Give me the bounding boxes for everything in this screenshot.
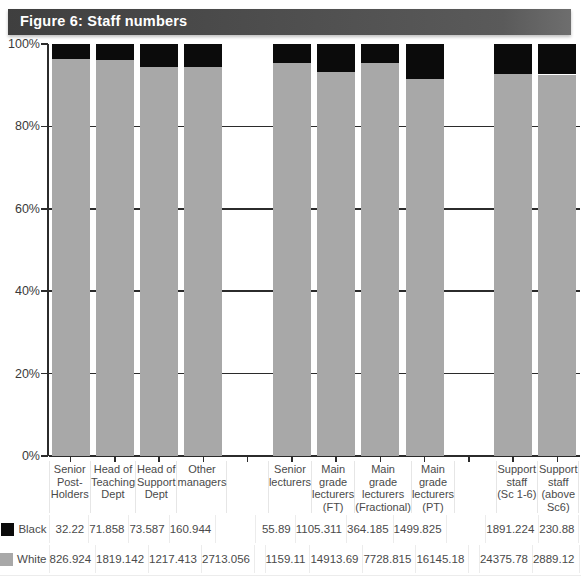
category-label-line: lecturers	[355, 488, 411, 501]
table-cell-empty	[216, 515, 256, 543]
category-label: Supportstaff(aboveSc6)	[538, 461, 579, 513]
bar-segment-black	[361, 44, 399, 63]
black-swatch-icon	[1, 523, 14, 536]
bar-slot	[403, 44, 447, 456]
legend-white: White	[0, 545, 49, 573]
category-label: Maingradelecturers(FT)	[312, 461, 355, 513]
stacked-bar	[406, 44, 444, 456]
bar-segment-white	[52, 59, 90, 456]
category-label-line: Other	[177, 463, 226, 476]
category-label-line: (above	[538, 488, 578, 501]
category-label-empty	[455, 461, 496, 513]
table-cell-empty	[447, 515, 487, 543]
y-tick-mark	[41, 43, 48, 45]
bar-segment-white	[361, 63, 399, 456]
table-values-white: 826.9241819.1421217.4132713.0561159.1114…	[49, 545, 580, 573]
category-label-line: Post-	[50, 476, 90, 489]
category-label-line: Main	[412, 463, 454, 476]
table-cell: 230.88	[539, 515, 579, 543]
table-row-white: White 826.9241819.1421217.4132713.056115…	[0, 545, 581, 573]
bar-segment-black	[184, 44, 222, 67]
y-axis: 0%20%40%60%80%100%	[0, 44, 40, 456]
y-tick-label: 60%	[15, 202, 40, 216]
data-table: Black 32.2271.85873.587160.94455.891105.…	[0, 513, 581, 581]
category-label-line: Sc6)	[538, 501, 578, 514]
category-label: Seniorlecturers	[269, 461, 312, 513]
y-tick-mark	[41, 455, 48, 457]
y-tick-mark	[41, 126, 48, 128]
category-label: Head ofTeachingDept	[91, 461, 136, 513]
chart-container: 0%20%40%60%80%100%	[0, 44, 581, 456]
category-label: Othermanagers	[177, 461, 227, 513]
bar-segment-black	[406, 44, 444, 79]
category-label: Maingradelecturers(Fractional)	[355, 461, 412, 513]
category-label-line: Main	[355, 463, 411, 476]
bar-slot	[270, 44, 314, 456]
bar-slot	[358, 44, 402, 456]
bar-slot-empty	[226, 44, 270, 456]
bar-segment-black	[538, 44, 576, 74]
y-tick-mark	[41, 290, 48, 292]
bar-segment-white	[140, 67, 178, 456]
table-cell: 1891.224	[486, 515, 539, 543]
stacked-bar	[140, 44, 178, 456]
category-label: Supportstaff(Sc 1-6)	[497, 461, 538, 513]
table-cell: 73.587	[129, 515, 169, 543]
bar-slot-empty	[447, 44, 491, 456]
table-row-black: Black 32.2271.85873.587160.94455.891105.…	[0, 515, 581, 543]
table-cell: 2889.12	[533, 545, 580, 573]
category-label-line: (Sc 1-6)	[497, 488, 537, 501]
category-label-line: lecturers	[312, 488, 354, 501]
bar-slot	[49, 44, 93, 456]
table-cell: 364.185	[347, 515, 394, 543]
table-cell: 2713.056	[202, 545, 255, 573]
legend-black: Black	[0, 515, 49, 543]
bar-slot	[535, 44, 579, 456]
category-label-line: (PT)	[412, 501, 454, 514]
y-tick-label: 20%	[15, 367, 40, 381]
figure-title-bar: Figure 6: Staff numbers	[8, 9, 571, 35]
category-label-line: (Fractional)	[355, 501, 411, 514]
bar-slot	[491, 44, 535, 456]
stacked-bars	[49, 44, 580, 456]
table-cell: 14913.69	[310, 545, 363, 573]
table-cell: 1819.142	[96, 545, 149, 573]
category-label: Maingradelecturers(PT)	[412, 461, 455, 513]
y-tick-mark	[41, 373, 48, 375]
category-label-line: Teaching	[91, 476, 135, 489]
table-cell: 1159.11	[266, 545, 311, 573]
table-cell: 826.924	[49, 545, 97, 573]
bar-segment-black	[317, 44, 355, 72]
table-cell: 1217.413	[149, 545, 202, 573]
table-cell-empty	[469, 545, 480, 573]
category-label-line: Main	[312, 463, 354, 476]
category-label-line: (FT)	[312, 501, 354, 514]
bar-segment-white	[317, 72, 355, 456]
table-cell: 7728.815	[363, 545, 416, 573]
stacked-bar	[361, 44, 399, 456]
bar-slot	[137, 44, 181, 456]
category-label-line: Support	[538, 463, 578, 476]
category-label-line: managers	[177, 476, 226, 489]
y-tick-label: 80%	[15, 119, 40, 133]
y-tick-label: 40%	[15, 284, 40, 298]
table-cell: 1499.825	[394, 515, 447, 543]
category-label-line: Holders	[50, 488, 90, 501]
bar-segment-black	[140, 44, 178, 67]
table-cell: 16145.18	[416, 545, 469, 573]
category-label-line: staff	[538, 476, 578, 489]
category-axis-labels: SeniorPost-HoldersHead ofTeachingDeptHea…	[49, 461, 580, 513]
table-cell: 160.944	[170, 515, 217, 543]
category-label-line: grade	[312, 476, 354, 489]
bar-segment-white	[184, 67, 222, 456]
table-cell: 32.22	[49, 515, 90, 543]
table-values-black: 32.2271.85873.587160.94455.891105.311364…	[49, 515, 580, 543]
white-swatch-icon	[0, 553, 13, 566]
table-cell: 1105.311	[296, 515, 347, 543]
legend-label-black: Black	[18, 523, 46, 535]
category-label-line: Senior	[50, 463, 90, 476]
category-label-line: Senior	[269, 463, 311, 476]
category-label-line: Head of	[136, 463, 176, 476]
table-cell: 24375.78	[480, 545, 533, 573]
bar-segment-black	[273, 44, 311, 63]
